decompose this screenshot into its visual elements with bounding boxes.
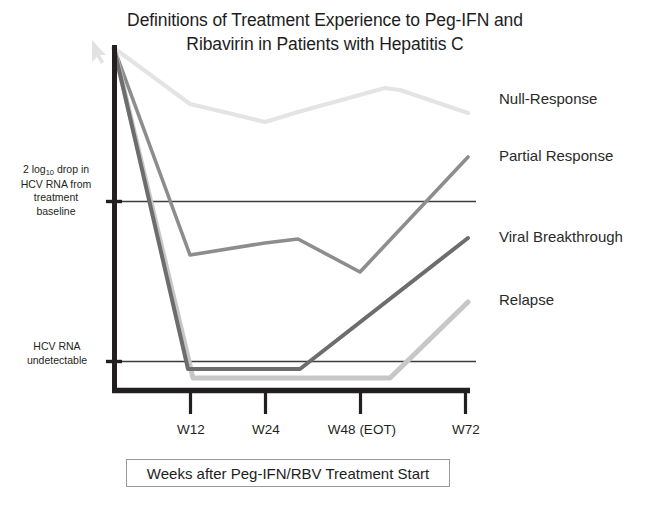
- x-tick-label-w72: W72: [452, 421, 480, 438]
- series-line-null-response: [114, 48, 468, 122]
- series-label-null-response: Null-Response: [499, 90, 597, 108]
- annotation-two-log-drop-subscript: 10: [46, 168, 54, 177]
- annotation-two-log-drop-line-1-post: drop in: [54, 163, 89, 175]
- annotation-hcv-rna-undetectable: HCV RNA undetectable: [6, 340, 108, 367]
- series-label-relapse: Relapse: [499, 291, 554, 309]
- x-axis-ticks: [191, 391, 466, 414]
- series-label-viral-breakthrough: Viral Breakthrough: [499, 228, 623, 246]
- annotation-undetectable-line-1: HCV RNA: [33, 340, 80, 352]
- x-axis-title-box: Weeks after Peg-IFN/RBV Treatment Start: [126, 459, 450, 487]
- annotation-undetectable-line-2: undetectable: [27, 354, 87, 366]
- x-tick-label-w48-eot: W48 (EOT): [328, 421, 396, 438]
- annotation-two-log-drop-line-1-pre: 2 log: [23, 163, 46, 175]
- annotation-two-log-drop-line-4: baseline: [36, 205, 75, 217]
- x-tick-label-w24: W24: [252, 421, 280, 438]
- scan-edge-artifact: [0, 498, 650, 507]
- annotation-two-log-drop: 2 log10 drop in HCV RNA from treatment b…: [4, 163, 108, 218]
- x-axis-title: Weeks after Peg-IFN/RBV Treatment Start: [147, 465, 429, 482]
- series-line-partial-response: [114, 48, 468, 272]
- annotation-two-log-drop-line-2: HCV RNA from: [21, 178, 92, 190]
- series-label-partial-response: Partial Response: [499, 147, 613, 165]
- annotation-two-log-drop-line-3: treatment: [34, 191, 78, 203]
- cursor-artifact: [92, 40, 106, 64]
- plot-area: [0, 0, 650, 507]
- x-tick-label-w12: W12: [177, 421, 205, 438]
- chart-figure: Definitions of Treatment Experience to P…: [0, 0, 650, 507]
